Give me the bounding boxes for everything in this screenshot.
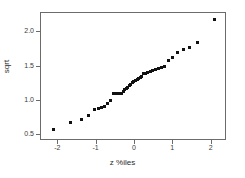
y-tick-mark bbox=[36, 134, 40, 135]
plot-area-frame bbox=[40, 12, 226, 140]
x-tick-label: 1 bbox=[162, 144, 182, 151]
data-point bbox=[69, 121, 72, 124]
data-point bbox=[167, 59, 170, 62]
y-tick-label: 0.5 bbox=[14, 130, 34, 137]
data-point bbox=[106, 102, 109, 105]
x-tick-label: 2 bbox=[201, 144, 221, 151]
y-tick-mark bbox=[36, 100, 40, 101]
data-point bbox=[182, 48, 185, 51]
qq-plot-chart: -2-1012 0.51.01.52.0 z %iles sqrt bbox=[0, 0, 245, 178]
data-point bbox=[109, 99, 112, 102]
data-point bbox=[140, 75, 143, 78]
x-axis-title: z %iles bbox=[0, 158, 245, 167]
x-tick-label: -1 bbox=[86, 144, 106, 151]
data-point bbox=[52, 128, 55, 131]
data-point bbox=[196, 41, 199, 44]
x-tick-label: -2 bbox=[47, 144, 67, 151]
data-point bbox=[213, 18, 216, 21]
data-point bbox=[80, 118, 83, 121]
x-tick-label: 0 bbox=[124, 144, 144, 151]
data-point bbox=[176, 51, 179, 54]
data-point bbox=[163, 65, 166, 68]
y-tick-mark bbox=[36, 31, 40, 32]
y-tick-label: 1.0 bbox=[14, 96, 34, 103]
y-tick-label: 2.0 bbox=[14, 27, 34, 34]
y-tick-mark bbox=[36, 66, 40, 67]
data-point bbox=[188, 46, 191, 49]
y-axis-title: sqrt bbox=[2, 47, 11, 87]
data-point bbox=[103, 105, 106, 108]
data-point bbox=[171, 56, 174, 59]
y-tick-label: 1.5 bbox=[14, 62, 34, 69]
data-point bbox=[87, 114, 90, 117]
